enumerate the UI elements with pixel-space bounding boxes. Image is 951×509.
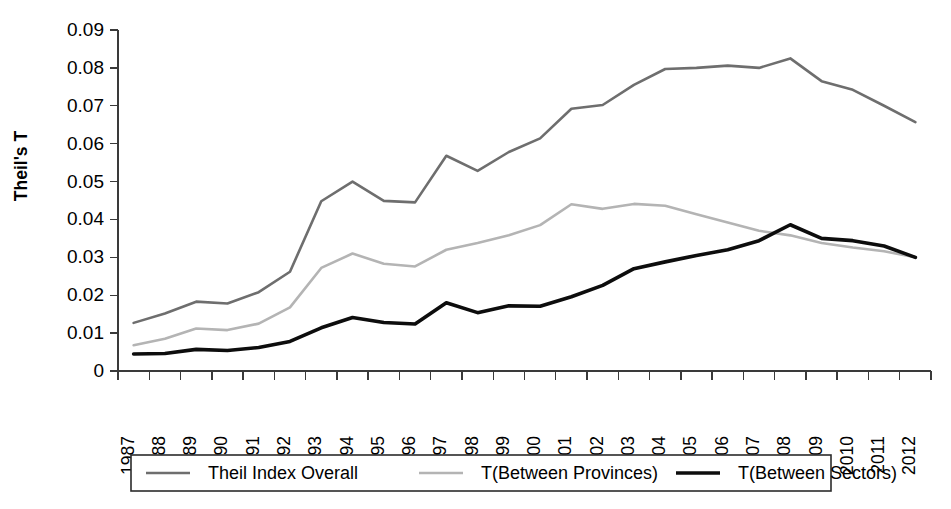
chart-series-group	[134, 58, 916, 354]
y-tick-label: 0.02	[67, 284, 104, 305]
y-axis-group: 00.010.020.030.040.050.060.070.080.09	[67, 19, 118, 381]
y-tick-label: 0.07	[67, 95, 104, 116]
y-tick-label: 0	[93, 360, 104, 381]
legend-label-t-between-provinces: T(Between Provinces)	[481, 463, 658, 483]
y-tick-label: 0.06	[67, 133, 104, 154]
y-tick-label: 0.05	[67, 171, 104, 192]
chart-legend: Theil Index OverallT(Between Provinces)T…	[131, 455, 897, 491]
legend-label-t-between-sectors: T(Between Sectors)	[738, 463, 897, 483]
y-tick-label: 0.08	[67, 57, 104, 78]
series-line-t-between-provinces	[134, 204, 916, 345]
y-tick-label: 0.09	[67, 19, 104, 40]
y-tick-label: 0.04	[67, 208, 104, 229]
theil-index-chart: 00.010.020.030.040.050.060.070.080.09 19…	[0, 0, 951, 509]
chart-canvas: 00.010.020.030.040.050.060.070.080.09 19…	[0, 0, 951, 509]
legend-items: Theil Index OverallT(Between Provinces)T…	[146, 463, 897, 483]
series-line-t-between-sectors	[134, 225, 916, 354]
series-line-theil-index-overall	[134, 58, 916, 322]
x-axis-ticks	[118, 371, 931, 380]
legend-label-theil-index-overall: Theil Index Overall	[208, 463, 358, 483]
x-tick-label-2012: 2012	[899, 436, 919, 475]
y-axis-title: Theil's T	[11, 131, 31, 202]
y-tick-label: 0.01	[67, 322, 104, 343]
y-axis-ticks	[110, 30, 118, 371]
y-axis-tick-labels: 00.010.020.030.040.050.060.070.080.09	[67, 19, 104, 381]
y-tick-label: 0.03	[67, 246, 104, 267]
